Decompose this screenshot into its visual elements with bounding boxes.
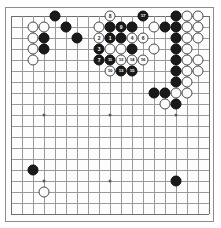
- stone-black[interactable]: [61, 22, 72, 33]
- grid-line-vertical: [55, 16, 56, 214]
- stone-white[interactable]: [39, 22, 50, 33]
- grid-line-vertical: [22, 16, 23, 214]
- stone-white[interactable]: [182, 88, 193, 99]
- stone-white[interactable]: [193, 55, 204, 66]
- stone-black[interactable]: [127, 44, 138, 55]
- stone-black[interactable]: [39, 44, 50, 55]
- stone-white[interactable]: [28, 22, 39, 33]
- stone-white[interactable]: [116, 44, 127, 55]
- stone-black[interactable]: [171, 22, 182, 33]
- grid-line-vertical: [77, 16, 78, 214]
- stone-black-move-3[interactable]: 3: [94, 44, 105, 55]
- move-number-label: 11: [108, 58, 112, 62]
- stone-white[interactable]: [28, 33, 39, 44]
- stone-white-move-6[interactable]: 6: [138, 33, 149, 44]
- go-diagram-app: 817921463711121416101315: [0, 0, 221, 228]
- stone-black-move-13[interactable]: 13: [116, 66, 127, 77]
- stone-white[interactable]: [160, 99, 171, 110]
- stone-black[interactable]: [116, 33, 127, 44]
- grid-line-horizontal: [11, 214, 209, 215]
- stone-white-move-16[interactable]: 16: [138, 55, 149, 66]
- grid-line-vertical: [165, 16, 166, 214]
- stone-white[interactable]: [28, 44, 39, 55]
- stone-black-move-9[interactable]: 9: [116, 22, 127, 33]
- stone-white[interactable]: [182, 77, 193, 88]
- stone-white[interactable]: [182, 22, 193, 33]
- stone-white[interactable]: [105, 44, 116, 55]
- stone-black-move-7[interactable]: 7: [94, 55, 105, 66]
- stone-black[interactable]: [171, 11, 182, 22]
- hoshi-point: [109, 180, 112, 183]
- stone-black-move-1[interactable]: 1: [105, 33, 116, 44]
- move-number-label: 9: [120, 25, 122, 30]
- stone-black-move-17[interactable]: 17: [138, 11, 149, 22]
- move-number-label: 8: [109, 14, 111, 19]
- stone-black-move-15[interactable]: 15: [127, 66, 138, 77]
- grid-line-vertical: [198, 16, 199, 214]
- move-number-label: 14: [130, 58, 134, 62]
- move-number-label: 1: [109, 36, 111, 41]
- hoshi-point: [43, 180, 46, 183]
- stone-white[interactable]: [149, 44, 160, 55]
- go-board[interactable]: 817921463711121416101315: [5, 7, 214, 222]
- stone-black[interactable]: [160, 88, 171, 99]
- move-number-label: 17: [141, 14, 145, 18]
- grid-line-vertical: [209, 16, 210, 214]
- stone-white-move-8[interactable]: 8: [105, 11, 116, 22]
- move-number-label: 6: [142, 36, 144, 41]
- grid-line-vertical: [88, 16, 89, 214]
- stone-white[interactable]: [193, 11, 204, 22]
- stone-black[interactable]: [171, 66, 182, 77]
- hoshi-point: [43, 114, 46, 117]
- stone-black-move-11[interactable]: 11: [105, 55, 116, 66]
- stone-black[interactable]: [149, 88, 160, 99]
- grid-line-vertical: [143, 16, 144, 214]
- stone-white[interactable]: [182, 33, 193, 44]
- stone-white[interactable]: [193, 33, 204, 44]
- stone-black[interactable]: [171, 44, 182, 55]
- stone-white[interactable]: [182, 66, 193, 77]
- move-number-label: 10: [108, 69, 112, 73]
- hoshi-point: [109, 114, 112, 117]
- grid-line-vertical: [11, 16, 12, 214]
- stone-black[interactable]: [50, 11, 61, 22]
- stone-black[interactable]: [72, 33, 83, 44]
- stone-black[interactable]: [39, 33, 50, 44]
- stone-white[interactable]: [39, 187, 50, 198]
- stone-black[interactable]: [171, 99, 182, 110]
- board-container: 817921463711121416101315: [0, 0, 221, 228]
- stone-black[interactable]: [171, 176, 182, 187]
- move-number-label: 4: [131, 36, 133, 41]
- grid-line-vertical: [66, 16, 67, 214]
- stone-white[interactable]: [193, 66, 204, 77]
- move-number-label: 15: [130, 69, 134, 73]
- stone-white-move-12[interactable]: 12: [116, 55, 127, 66]
- stone-white-move-14[interactable]: 14: [127, 55, 138, 66]
- stone-black[interactable]: [28, 165, 39, 176]
- stone-black[interactable]: [160, 22, 171, 33]
- stone-white[interactable]: [149, 22, 160, 33]
- move-number-label: 13: [119, 69, 123, 73]
- stone-black[interactable]: [127, 22, 138, 33]
- stone-white-move-2[interactable]: 2: [94, 33, 105, 44]
- move-number-label: 12: [119, 58, 123, 62]
- stone-black[interactable]: [171, 55, 182, 66]
- stone-white[interactable]: [171, 88, 182, 99]
- move-number-label: 3: [98, 47, 100, 52]
- stone-white[interactable]: [94, 22, 105, 33]
- stone-white[interactable]: [182, 55, 193, 66]
- move-number-label: 2: [98, 36, 100, 41]
- stone-black[interactable]: [171, 33, 182, 44]
- stone-white[interactable]: [182, 44, 193, 55]
- hoshi-point: [175, 114, 178, 117]
- stone-white[interactable]: [193, 22, 204, 33]
- stone-white[interactable]: [28, 55, 39, 66]
- stone-black[interactable]: [105, 22, 116, 33]
- stone-white[interactable]: [182, 11, 193, 22]
- move-number-label: 7: [98, 58, 100, 63]
- stone-white-move-4[interactable]: 4: [127, 33, 138, 44]
- move-number-label: 16: [141, 58, 145, 62]
- stone-white-move-10[interactable]: 10: [105, 66, 116, 77]
- stone-black[interactable]: [171, 77, 182, 88]
